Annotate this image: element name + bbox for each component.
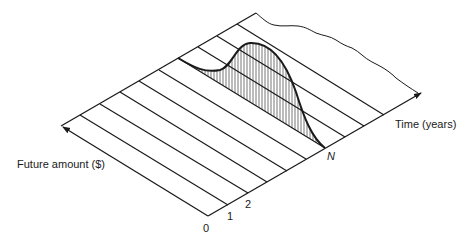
tick-label-n: N <box>327 150 335 162</box>
time-axis-label: Time (years) <box>395 118 456 130</box>
future-amount-label: Future amount ($) <box>17 158 105 170</box>
year-stripe-3 <box>120 92 267 182</box>
year-stripes <box>80 24 384 205</box>
tick-label-0: 0 <box>203 222 209 234</box>
tick-label-2: 2 <box>245 198 251 210</box>
time-axis <box>208 93 421 216</box>
cash-flow-diagram: Future amount ($) Time (years) 0 1 2 N <box>0 0 468 239</box>
future-amount-axis <box>63 127 208 216</box>
year-stripe-2 <box>100 104 248 193</box>
tick-label-1: 1 <box>227 210 233 222</box>
